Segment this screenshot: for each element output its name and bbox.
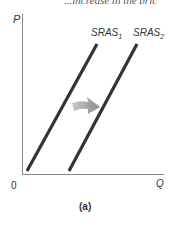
origin-label: 0 [11,180,17,191]
sras1-label: SRAS1 [91,27,122,40]
sras1-label-subscript: 1 [118,33,122,40]
sras2-label-subscript: 2 [160,33,164,40]
x-axis-label: Q [156,178,164,189]
shift-right-arrow-icon [72,97,100,114]
y-axis-label: P [13,13,20,25]
figure-caption: (a) [79,201,91,212]
sras2-label: SRAS2 [133,27,164,40]
sras2-label-name: SRAS [133,27,160,38]
sras1-label-name: SRAS [91,27,118,38]
